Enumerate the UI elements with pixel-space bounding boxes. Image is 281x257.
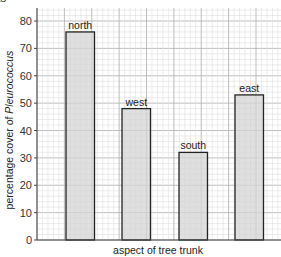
bar-south: south [179, 139, 208, 240]
y-tick-labels: 01020304050607080 [20, 15, 37, 246]
bar-east: east [235, 82, 264, 240]
y-tick-label: 0 [26, 234, 32, 246]
bar-label: west [124, 96, 147, 108]
y-tick-label: 60 [20, 70, 32, 82]
bar-chart: northwestsoutheast 01020304050607080 per… [0, 0, 281, 257]
y-tick-label: 20 [20, 179, 32, 191]
y-tick-label: 50 [20, 97, 32, 109]
bar-west: west [122, 96, 151, 240]
y-tick-label: 70 [20, 42, 32, 54]
bar-label: south [180, 139, 206, 151]
bar-label: east [239, 82, 259, 94]
y-tick-label: 30 [20, 152, 32, 164]
bar-label: north [68, 19, 92, 31]
bar-north: north [66, 19, 95, 240]
y-tick-label: 10 [20, 207, 32, 219]
y-tick-label: 80 [20, 15, 32, 27]
x-axis-label: aspect of tree trunk [113, 244, 204, 256]
y-tick-label: 40 [20, 125, 32, 137]
y-axis-label: percentage cover of Pleurococcus [3, 50, 15, 210]
